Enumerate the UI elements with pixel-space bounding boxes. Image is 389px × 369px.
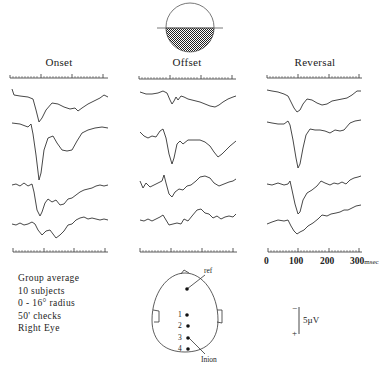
x-axis-unit: msec xyxy=(364,258,378,266)
legend-line: 0 - 16° radius xyxy=(18,297,79,310)
onset-trace-4 xyxy=(12,217,108,238)
offset-trace-1 xyxy=(140,91,236,107)
legend-line: Right Eye xyxy=(18,322,79,335)
offset-trace-4 xyxy=(140,209,236,225)
reversal-trace-2 xyxy=(267,120,361,168)
x-tick-0: 0 xyxy=(264,256,269,266)
reversal-trace-1 xyxy=(267,90,361,112)
hemifield-checkerboard-icon xyxy=(157,3,223,52)
electrode-label-1: 1 xyxy=(178,310,182,319)
electrode-label-4: 4 xyxy=(178,344,182,353)
head-electrode-diagram xyxy=(152,270,222,354)
column-title-onset: Onset xyxy=(4,56,114,68)
onset-trace-3 xyxy=(12,183,108,216)
legend-line: 10 subjects xyxy=(18,285,79,298)
electrode-label-2: 2 xyxy=(178,321,182,330)
scale-minus: − xyxy=(292,303,297,313)
electrode-label-3: 3 xyxy=(178,333,182,342)
x-tick-100: 100 xyxy=(289,256,303,266)
legend-line: Group average xyxy=(18,272,79,285)
x-tick-200: 200 xyxy=(320,256,334,266)
ref-label: ref xyxy=(204,266,212,275)
x-tick-300: 300msec xyxy=(350,256,379,266)
scale-value: 5µV xyxy=(303,315,319,325)
scale-plus: + xyxy=(292,328,297,338)
reversal-trace-3 xyxy=(267,176,361,214)
electrode-dots xyxy=(185,287,190,351)
x-tick-300-value: 300 xyxy=(350,256,364,266)
waveform-traces xyxy=(12,89,361,238)
figure-legend: Group average 10 subjects 0 - 16° radius… xyxy=(18,272,79,335)
onset-trace-1 xyxy=(12,89,108,122)
column-title-offset: Offset xyxy=(132,56,242,68)
offset-trace-3 xyxy=(140,175,236,197)
onset-trace-2 xyxy=(12,123,108,180)
offset-trace-2 xyxy=(140,129,236,164)
inion-label: Inion xyxy=(201,355,217,364)
legend-line: 50' checks xyxy=(18,310,79,323)
column-title-reversal: Reversal xyxy=(260,56,370,68)
reversal-trace-4 xyxy=(267,205,361,234)
